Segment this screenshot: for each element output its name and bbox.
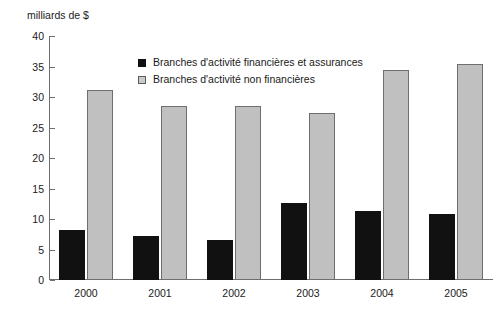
legend-label: Branches d'activité financières et assur… [153, 57, 363, 68]
bar-group [419, 36, 493, 280]
y-axis-tick [50, 280, 55, 281]
x-axis-tick-label: 2003 [271, 288, 345, 299]
y-axis-tick-label: 5 [0, 245, 44, 256]
legend-label: Branches d'activité non financières [153, 74, 315, 85]
x-axis-tick-label: 2001 [123, 288, 197, 299]
y-axis-tick-label: 20 [0, 153, 44, 164]
x-axis-tick-label: 2004 [345, 288, 419, 299]
bar [161, 106, 187, 280]
bar [355, 211, 381, 280]
bar-chart: milliards de $ 0510152025303540 20002001… [0, 0, 501, 317]
y-axis-tick-label: 10 [0, 214, 44, 225]
y-axis-tick-label: 15 [0, 184, 44, 195]
y-axis-unit-label: milliards de $ [27, 9, 89, 21]
y-axis-tick-label: 40 [0, 31, 44, 42]
bar [235, 106, 261, 280]
legend-item: Branches d'activité non financières [138, 71, 363, 88]
bar-group [49, 36, 123, 280]
legend-swatch-icon [138, 59, 146, 67]
bar [309, 113, 335, 280]
bar [457, 64, 483, 280]
legend-swatch-icon [138, 76, 146, 84]
bar [133, 236, 159, 280]
bar [59, 230, 85, 280]
x-axis-tick-label: 2002 [197, 288, 271, 299]
y-axis-tick-label: 35 [0, 62, 44, 73]
bar [383, 70, 409, 280]
bar [429, 214, 455, 280]
bar [87, 90, 113, 280]
y-axis-tick-label: 25 [0, 123, 44, 134]
legend-item: Branches d'activité financières et assur… [138, 54, 363, 71]
y-axis-tick-label: 30 [0, 92, 44, 103]
y-axis-tick-label: 0 [0, 275, 44, 286]
x-axis-tick-label: 2005 [419, 288, 493, 299]
bar [207, 240, 233, 280]
x-axis-tick-label: 2000 [49, 288, 123, 299]
chart-legend: Branches d'activité financières et assur… [138, 54, 363, 88]
bar [281, 203, 307, 280]
